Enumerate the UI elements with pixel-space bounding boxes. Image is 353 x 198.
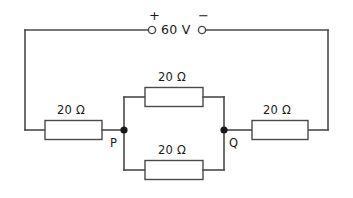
source-voltage-label: 60 V [161, 24, 191, 37]
resistor-left-body [45, 121, 102, 140]
node-p-dot [120, 126, 127, 133]
resistor-middle-bottom-body [145, 161, 203, 180]
node-p-label: P [110, 138, 117, 150]
circuit-diagram: + − 60 V 20 Ω 20 Ω 20 Ω 20 Ω P Q [0, 0, 353, 198]
resistor-middle-top-body [145, 88, 203, 107]
negative-terminal-sign: − [198, 9, 209, 22]
terminal-negative-circle [198, 26, 205, 33]
resistor-right-body [252, 121, 308, 140]
resistor-right-label: 20 Ω [263, 105, 291, 117]
resistor-middle-top-label: 20 Ω [158, 72, 186, 84]
positive-terminal-sign: + [149, 9, 160, 22]
resistor-left-label: 20 Ω [57, 105, 85, 117]
terminal-positive-circle [148, 26, 155, 33]
node-q-dot [220, 126, 227, 133]
resistor-middle-bottom-label: 20 Ω [158, 145, 186, 157]
node-q-label: Q [229, 138, 238, 150]
